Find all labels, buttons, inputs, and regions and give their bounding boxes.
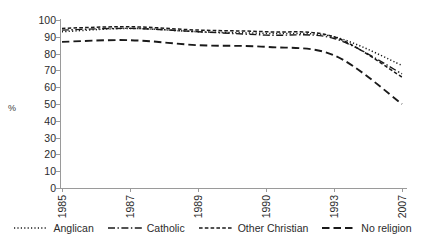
x-tick-mark (130, 188, 131, 192)
y-tick-mark (56, 121, 60, 122)
y-tick-label: 50 (22, 99, 56, 110)
y-tick-label: 10 (22, 166, 56, 177)
x-tick-label: 1989 (192, 195, 204, 218)
y-tick-mark (56, 87, 60, 88)
y-tick-mark (56, 54, 60, 55)
x-tick-mark (402, 188, 403, 192)
legend-label: No religion (361, 222, 411, 234)
y-tick-label: 60 (22, 82, 56, 93)
legend-label: Anglican (53, 222, 93, 234)
series-line-other-christian (62, 27, 402, 77)
legend-swatch-long-dash-icon (322, 224, 356, 232)
y-tick-label: 0 (22, 183, 56, 194)
y-tick-label: 20 (22, 149, 56, 160)
y-axis-ticks: 1009080706050403020100 (22, 0, 56, 248)
legend-item-other-christian[interactable]: Other Christian (199, 222, 309, 234)
x-tick-mark (62, 188, 63, 192)
y-tick-label: 70 (22, 65, 56, 76)
legend-swatch-dotted-icon (14, 224, 48, 232)
legend-item-catholic[interactable]: Catholic (108, 222, 185, 234)
x-tick-label: 1993 (328, 195, 340, 218)
x-tick-label: 2007 (396, 195, 408, 218)
legend-swatch-short-dash-icon (199, 224, 233, 232)
x-tick-mark (334, 188, 335, 192)
y-tick-mark (56, 37, 60, 38)
series-line-anglican (62, 28, 402, 65)
x-tick-label: 1990 (260, 195, 272, 218)
legend-label: Other Christian (238, 222, 309, 234)
x-tick-mark (266, 188, 267, 192)
line-chart: % 1009080706050403020100 198519871989199… (0, 0, 426, 248)
y-tick-label: 80 (22, 49, 56, 60)
y-tick-mark (56, 104, 60, 105)
y-axis-unit-label: % (8, 103, 16, 113)
y-tick-label: 40 (22, 116, 56, 127)
x-axis-line (60, 188, 407, 189)
y-tick-mark (56, 154, 60, 155)
y-tick-label: 90 (22, 32, 56, 43)
y-tick-label: 100 (22, 15, 56, 26)
x-tick-label: 1985 (56, 195, 68, 218)
x-tick-label: 1987 (124, 195, 136, 218)
series-line-no-religion (62, 40, 402, 104)
y-tick-mark (56, 188, 60, 189)
legend-item-no-religion[interactable]: No religion (322, 222, 411, 234)
y-tick-mark (56, 20, 60, 21)
legend-swatch-dash-dot-icon (108, 224, 142, 232)
y-tick-label: 30 (22, 133, 56, 144)
chart-legend: AnglicanCatholicOther ChristianNo religi… (0, 222, 426, 234)
plot-area (60, 20, 406, 188)
series-line-catholic (62, 28, 402, 73)
x-tick-mark (198, 188, 199, 192)
legend-item-anglican[interactable]: Anglican (14, 222, 93, 234)
y-tick-mark (56, 138, 60, 139)
y-tick-mark (56, 70, 60, 71)
legend-label: Catholic (147, 222, 185, 234)
y-tick-mark (56, 171, 60, 172)
